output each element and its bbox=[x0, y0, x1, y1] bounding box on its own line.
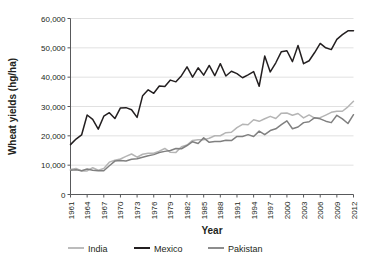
legend-item-india[interactable]: India bbox=[68, 244, 108, 254]
x-tick-label: 2000 bbox=[283, 201, 292, 219]
x-tick-label: 1997 bbox=[266, 201, 275, 219]
legend-label-pakistan: Pakistan bbox=[228, 244, 263, 254]
legend-item-mexico[interactable]: Mexico bbox=[134, 244, 183, 254]
y-axis-title: Wheat yields (hg/ha) bbox=[7, 58, 18, 155]
y-tick-label: 50,000 bbox=[41, 44, 66, 53]
x-axis-title: Year bbox=[201, 225, 222, 236]
x-tick-label: 1991 bbox=[233, 201, 242, 219]
x-tick-label: 2012 bbox=[350, 201, 359, 219]
y-tick-label: 10,000 bbox=[41, 161, 66, 170]
y-tick-label: 30,000 bbox=[41, 103, 66, 112]
gridlines bbox=[71, 19, 354, 166]
data-series-group bbox=[71, 31, 354, 171]
x-tick-label: 1973 bbox=[133, 201, 142, 219]
y-tick-label: 60,000 bbox=[41, 15, 66, 24]
x-tick-label: 1961 bbox=[67, 201, 76, 219]
x-tick-label: 1985 bbox=[200, 201, 209, 219]
x-tick-label: 1964 bbox=[83, 201, 92, 219]
legend-item-pakistan[interactable]: Pakistan bbox=[208, 244, 263, 254]
x-tick-label: 2003 bbox=[300, 201, 309, 219]
x-tick-label: 1988 bbox=[216, 201, 225, 219]
x-axis-tick-labels: 1961196419671970197319761979198219851988… bbox=[67, 201, 359, 219]
series-line-pakistan bbox=[71, 115, 354, 171]
legend-label-mexico: Mexico bbox=[154, 244, 183, 254]
x-tick-label: 2006 bbox=[316, 201, 325, 219]
wheat-yields-line-chart: 010,00020,00030,00040,00050,00060,000 19… bbox=[0, 0, 366, 263]
x-tick-label: 1967 bbox=[100, 201, 109, 219]
x-tick-label: 1982 bbox=[183, 201, 192, 219]
x-tick-label: 1979 bbox=[166, 201, 175, 219]
chart-canvas: 010,00020,00030,00040,00050,00060,000 19… bbox=[0, 0, 366, 263]
y-tick-label: 40,000 bbox=[41, 73, 66, 82]
x-tick-label: 1976 bbox=[150, 201, 159, 219]
y-axis-tick-labels: 010,00020,00030,00040,00050,00060,000 bbox=[41, 15, 66, 200]
y-tick-label: 0 bbox=[61, 191, 66, 200]
x-tick-label: 1994 bbox=[250, 201, 259, 219]
x-tick-label: 1970 bbox=[116, 201, 125, 219]
y-tick-label: 20,000 bbox=[41, 132, 66, 141]
x-tick-label: 2009 bbox=[333, 201, 342, 219]
chart-legend: IndiaMexicoPakistan bbox=[68, 244, 263, 254]
legend-label-india: India bbox=[88, 244, 108, 254]
